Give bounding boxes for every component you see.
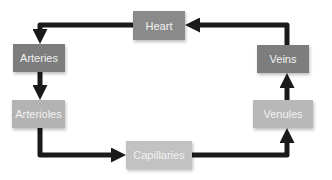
arrow-heart-to-arteries xyxy=(40,25,133,37)
node-venules-label: Venules xyxy=(263,108,302,120)
node-heart: Heart xyxy=(133,11,185,40)
node-veins: Veins xyxy=(257,45,309,73)
node-capillaries: Capillaries xyxy=(126,141,192,169)
node-arteries: Arteries xyxy=(13,44,65,72)
node-heart-label: Heart xyxy=(146,20,173,32)
arrow-veins-to-heart xyxy=(192,25,287,45)
arrow-capillaries-to-venules xyxy=(192,135,287,155)
node-capillaries-label: Capillaries xyxy=(133,149,184,161)
arrow-arterioles-to-capillaries xyxy=(40,128,119,155)
node-veins-label: Veins xyxy=(270,53,297,65)
node-arterioles: Arterioles xyxy=(12,100,65,128)
node-arteries-label: Arteries xyxy=(20,52,58,64)
node-arterioles-label: Arterioles xyxy=(15,108,61,120)
node-venules: Venules xyxy=(253,100,313,128)
